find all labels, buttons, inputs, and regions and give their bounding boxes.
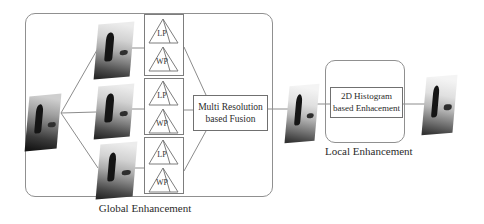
- wp-pyramid-icon: WP: [147, 167, 181, 193]
- lp-label: LP: [147, 150, 177, 160]
- globally-enhanced-photo: [285, 84, 320, 144]
- lp-label: LP: [147, 91, 177, 101]
- fusion-box-line1: Multi Resolution: [198, 101, 263, 113]
- lp-label: LP: [147, 29, 177, 39]
- scale-3-photo: [96, 141, 138, 199]
- scale-1-photo: [94, 21, 135, 79]
- hist-box-line1: 2D Histogram: [341, 91, 392, 103]
- local-enhancement-label: Local Enhancement: [325, 145, 405, 157]
- multi-resolution-fusion-box: Multi Resolution based Fusion: [193, 95, 268, 131]
- input-photo: [25, 94, 62, 152]
- pyramid-stack-3: LP WP: [144, 137, 184, 194]
- wp-label: WP: [147, 57, 177, 67]
- scale-2-photo: [94, 83, 135, 139]
- wp-pyramid-icon: WP: [147, 46, 181, 72]
- output-photo: [421, 75, 457, 136]
- lp-pyramid-icon: LP: [147, 18, 181, 44]
- pipeline-diagram: LP WP LP WP LP WP Multi Resolution based…: [0, 0, 484, 224]
- fusion-box-line2: based Fusion: [206, 113, 256, 125]
- 2d-histogram-enhancement-box: 2D Histogram based Enhacement: [330, 87, 403, 118]
- global-enhancement-label: Global Enhancement: [21, 202, 269, 214]
- pyramid-stack-2: LP WP: [144, 78, 184, 135]
- hist-box-line2: based Enhacement: [333, 103, 400, 115]
- pyramid-stack-1: LP WP: [144, 14, 184, 76]
- wp-pyramid-icon: WP: [147, 108, 181, 134]
- wp-label: WP: [147, 178, 177, 188]
- lp-pyramid-icon: LP: [147, 80, 181, 106]
- wp-label: WP: [147, 119, 177, 129]
- lp-pyramid-icon: LP: [147, 139, 181, 165]
